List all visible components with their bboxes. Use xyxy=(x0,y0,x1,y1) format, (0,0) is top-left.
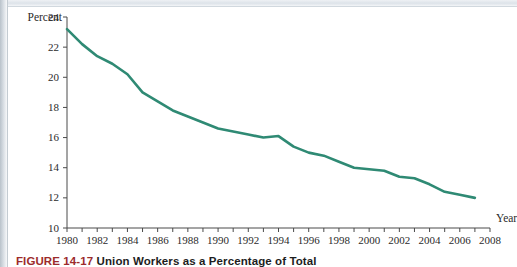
x-tick-label: 2008 xyxy=(479,234,502,246)
x-tick-label: 1986 xyxy=(147,234,170,246)
y-axis-tick-labels: 1012141618202224 xyxy=(48,11,60,234)
x-tick-label: 1980 xyxy=(56,234,79,246)
x-tick-label: 1994 xyxy=(268,234,291,246)
line-chart: 1012141618202224 19801982198419861988199… xyxy=(0,0,517,267)
x-tick-label: 1988 xyxy=(177,234,200,246)
x-tick-label: 2000 xyxy=(358,234,381,246)
y-tick-label: 16 xyxy=(48,131,60,143)
y-tick-label: 14 xyxy=(48,161,60,173)
x-axis-ticks xyxy=(67,228,490,232)
y-axis-title: Percent xyxy=(28,11,63,23)
y-tick-label: 10 xyxy=(48,222,60,234)
figure-label: FIGURE 14-17 xyxy=(16,255,93,267)
x-tick-label: 1992 xyxy=(237,234,259,246)
chart-axes xyxy=(67,17,490,228)
x-tick-label: 1990 xyxy=(207,234,230,246)
x-axis-tick-labels: 1980198219841986198819901992199419961998… xyxy=(56,234,502,246)
figure-title: Union Workers as a Percentage of Total xyxy=(97,255,317,267)
x-tick-label: 2002 xyxy=(388,234,410,246)
figure-caption: FIGURE 14-17 Union Workers as a Percenta… xyxy=(16,255,506,267)
y-axis-ticks xyxy=(63,17,67,228)
x-tick-label: 2006 xyxy=(449,234,472,246)
x-tick-label: 1998 xyxy=(328,234,351,246)
y-tick-label: 20 xyxy=(48,71,60,83)
union-percentage-line xyxy=(67,29,475,198)
x-tick-label: 2004 xyxy=(419,234,442,246)
y-tick-label: 22 xyxy=(48,41,59,53)
x-tick-label: 1982 xyxy=(86,234,108,246)
y-tick-label: 12 xyxy=(48,191,59,203)
y-tick-label: 18 xyxy=(48,101,60,113)
x-tick-label: 1996 xyxy=(298,234,321,246)
x-axis-title: Year xyxy=(496,212,517,224)
figure-panel: 1012141618202224 19801982198419861988199… xyxy=(0,0,517,267)
x-tick-label: 1984 xyxy=(116,234,139,246)
